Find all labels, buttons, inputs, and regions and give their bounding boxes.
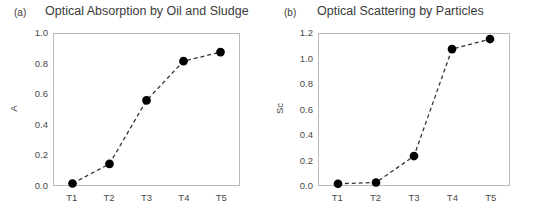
- y-axis-tick-label: 0.4: [287, 130, 313, 140]
- y-axis-tick-label: 0.4: [22, 120, 48, 130]
- data-point-marker: [448, 45, 457, 54]
- y-axis-tick-label: 0.0: [287, 181, 313, 191]
- panel-a-y-axis-label: A: [8, 98, 19, 120]
- series-line: [73, 52, 221, 183]
- y-axis-tick-label: 0.6: [22, 89, 48, 99]
- data-point-marker: [372, 178, 381, 187]
- x-axis-tick-label: T3: [397, 193, 431, 203]
- x-axis-tick-label: T1: [55, 193, 89, 203]
- x-axis-tick-label: T2: [359, 193, 393, 203]
- panel-b: (b) Optical Scattering by Particles Sc 0…: [268, 0, 535, 221]
- data-point-marker: [216, 48, 225, 57]
- y-axis-tick-label: 1.0: [22, 28, 48, 38]
- panel-a-plot-area: [53, 33, 240, 186]
- x-axis-tick-label: T1: [320, 193, 354, 203]
- panel-a-title: Optical Absorption by Oil and Sludge: [45, 4, 249, 18]
- series-line: [338, 39, 490, 184]
- panel-b-y-axis-label: Sc: [274, 98, 285, 120]
- data-point-marker: [68, 179, 77, 188]
- y-axis-tick-label: 0.8: [287, 79, 313, 89]
- figure-container: (a) Optical Absorption by Oil and Sludge…: [0, 0, 535, 221]
- x-axis-tick-label: T2: [92, 193, 126, 203]
- panel-b-title: Optical Scattering by Particles: [317, 4, 484, 18]
- y-axis-tick-label: 0.2: [287, 156, 313, 166]
- y-axis-tick-label: 0.0: [22, 181, 48, 191]
- y-axis-tick-label: 0.2: [22, 150, 48, 160]
- x-axis-tick-label: T3: [130, 193, 164, 203]
- data-point-marker: [142, 96, 151, 105]
- panel-b-tag: (b): [284, 7, 296, 18]
- data-point-marker: [410, 152, 419, 161]
- panel-a-tag: (a): [14, 7, 26, 18]
- data-point-marker: [179, 57, 188, 66]
- y-axis-tick-label: 1.0: [287, 54, 313, 64]
- data-point-marker: [486, 35, 495, 44]
- x-axis-tick-label: T4: [167, 193, 201, 203]
- y-axis-tick-label: 0.6: [287, 105, 313, 115]
- y-axis-tick-label: 1.2: [287, 28, 313, 38]
- panel-a-series-svg: [54, 34, 239, 185]
- panel-b-plot-area: [318, 33, 510, 186]
- data-point-marker: [334, 179, 343, 188]
- panel-b-series-svg: [319, 34, 509, 185]
- x-axis-tick-label: T5: [204, 193, 238, 203]
- panel-a: (a) Optical Absorption by Oil and Sludge…: [0, 0, 267, 221]
- x-axis-tick-label: T4: [435, 193, 469, 203]
- data-point-marker: [105, 160, 114, 169]
- y-axis-tick-label: 0.8: [22, 59, 48, 69]
- x-axis-tick-label: T5: [474, 193, 508, 203]
